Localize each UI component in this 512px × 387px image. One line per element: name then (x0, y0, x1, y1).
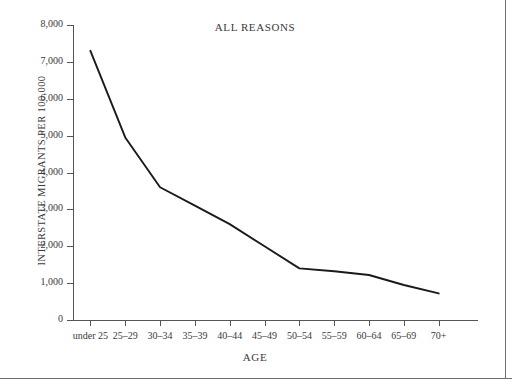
x-axis-tick-label: 70+ (431, 330, 447, 341)
x-axis-tick (160, 320, 161, 326)
plot-area (0, 0, 505, 378)
y-axis-tick: 4,000 (67, 173, 73, 174)
x-axis-tick-label: 25–29 (113, 330, 138, 341)
y-axis-tick: 1,000 (67, 283, 73, 284)
y-axis-tick-label: 7,000 (41, 55, 64, 66)
x-axis-tick (369, 320, 370, 326)
x-axis-tick (90, 320, 91, 326)
x-axis-tick-label: 60–64 (357, 330, 382, 341)
y-axis-tick-label: 8,000 (41, 18, 64, 29)
x-axis-tick-label: under 25 (73, 330, 108, 341)
y-axis-tick-label: 0 (58, 313, 63, 324)
x-axis-tick-label: 50–54 (287, 330, 312, 341)
y-axis-tick: 6,000 (67, 99, 73, 100)
y-axis-tick: 8,000 (67, 25, 73, 26)
x-axis-tick-label: 65–69 (391, 330, 416, 341)
x-axis-line (73, 320, 478, 321)
y-axis-tick: 0 (67, 320, 73, 321)
y-axis-tick-label: 3,000 (41, 202, 64, 213)
x-axis-tick (439, 320, 440, 326)
x-axis-title: AGE (195, 351, 315, 363)
x-axis-tick-label: 40–44 (217, 330, 242, 341)
x-axis-tick-label: 30–34 (148, 330, 173, 341)
y-axis-tick: 2,000 (67, 246, 73, 247)
x-axis-tick (334, 320, 335, 326)
chart-figure: ALL REASONS INTERSTATE MIGRANTS PER 100,… (0, 0, 505, 378)
x-axis-tick (230, 320, 231, 326)
y-axis-tick-label: 2,000 (41, 239, 64, 250)
page-canvas: ALL REASONS INTERSTATE MIGRANTS PER 100,… (0, 0, 512, 387)
x-axis-tick-label: 45–49 (252, 330, 277, 341)
y-axis-tick-label: 6,000 (41, 92, 64, 103)
y-axis-tick: 5,000 (67, 136, 73, 137)
y-axis-line (73, 25, 74, 321)
x-axis-tick (404, 320, 405, 326)
x-axis-tick-label: 35–39 (182, 330, 207, 341)
x-axis-tick (125, 320, 126, 326)
y-axis-tick-label: 5,000 (41, 129, 64, 140)
page-bottom-rule (0, 378, 512, 379)
data-series-line (90, 51, 438, 294)
chart-title: ALL REASONS (175, 21, 335, 33)
y-axis-tick: 3,000 (67, 209, 73, 210)
x-axis-tick (195, 320, 196, 326)
y-axis-tick-label: 4,000 (41, 166, 64, 177)
x-axis-tick-label: 55–59 (322, 330, 347, 341)
y-axis-tick-label: 1,000 (41, 276, 64, 287)
y-axis-tick: 7,000 (67, 62, 73, 63)
x-axis-tick (299, 320, 300, 326)
x-axis-tick (265, 320, 266, 326)
page-right-rule (505, 0, 506, 379)
